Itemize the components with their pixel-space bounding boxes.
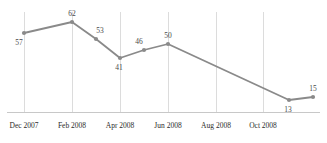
data-value-label: 13 xyxy=(284,105,292,114)
data-value-label: 15 xyxy=(309,84,317,93)
x-tick-label: Aug 2008 xyxy=(201,121,231,130)
line-chart-figure: 5762534146501315 Dec 2007Feb 2008Apr 200… xyxy=(0,0,327,143)
gridlines xyxy=(25,12,264,112)
x-tick-label: Feb 2008 xyxy=(58,121,86,130)
data-point-marker xyxy=(70,20,74,24)
data-value-label: 41 xyxy=(115,63,123,72)
x-tick-label: Dec 2007 xyxy=(10,121,39,130)
data-point-marker xyxy=(311,95,315,99)
data-point-marker xyxy=(118,56,122,60)
data-point-marker xyxy=(166,42,170,46)
x-tick-label: Oct 2008 xyxy=(249,121,277,130)
data-point-marker xyxy=(287,98,291,102)
data-point-marker xyxy=(142,48,146,52)
data-value-label: 50 xyxy=(164,31,172,40)
data-value-label: 57 xyxy=(15,38,23,47)
x-axis-tick-labels: Dec 2007Feb 2008Apr 2008Jun 2008Aug 2008… xyxy=(10,121,278,130)
data-point-marker xyxy=(94,37,98,41)
data-value-label: 46 xyxy=(135,37,143,46)
data-point-marker xyxy=(22,31,26,35)
x-tick-label: Apr 2008 xyxy=(106,121,135,130)
chart-canvas: 5762534146501315 Dec 2007Feb 2008Apr 200… xyxy=(0,0,327,143)
data-value-label: 53 xyxy=(96,26,104,35)
x-tick-label: Jun 2008 xyxy=(154,121,182,130)
data-value-label: 62 xyxy=(68,9,76,18)
